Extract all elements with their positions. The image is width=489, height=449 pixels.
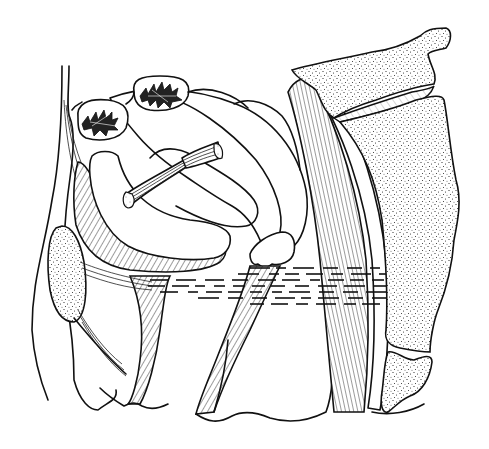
pubic-bone	[48, 226, 86, 322]
coccyx	[381, 352, 432, 413]
ovary-left	[78, 100, 128, 140]
vagina	[196, 266, 280, 414]
ovary-right	[134, 76, 189, 110]
pelvis-sagittal-diagram	[0, 0, 489, 449]
cervix	[250, 232, 295, 267]
urethra	[128, 276, 170, 404]
